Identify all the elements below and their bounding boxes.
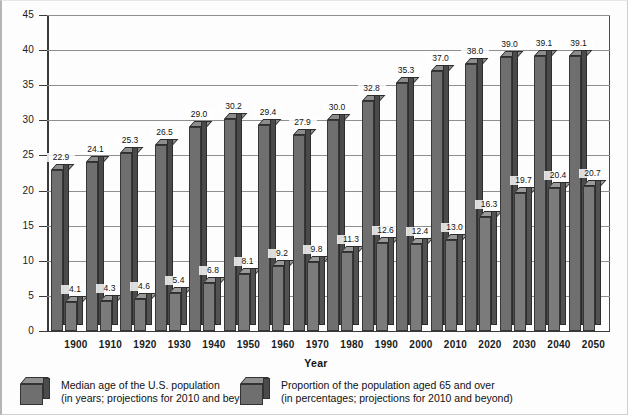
bar-value-label: 39.1 [530, 39, 558, 48]
bar-front-face [445, 240, 457, 331]
bar-front-face [327, 120, 339, 331]
bar-2020-series1 [479, 211, 491, 331]
bar-2050-series0 [569, 50, 581, 331]
y-tick-mark [39, 191, 47, 192]
bar-side-face [77, 296, 83, 325]
bar-front-face [224, 119, 236, 331]
bar-front-face [514, 193, 526, 331]
bar-2050-series1 [583, 180, 595, 331]
bar-front-face [51, 170, 63, 331]
bar-1940-series0 [189, 121, 201, 331]
bar-2010-series0 [431, 65, 443, 331]
bar-value-label: 25.3 [116, 136, 144, 145]
bar-1960-series1 [272, 260, 284, 331]
legend-label-line1: Proportion of the population aged 65 and… [281, 379, 495, 391]
bar-front-face [534, 56, 546, 331]
bar-value-label: 20.7 [579, 169, 607, 178]
bar-value-label: 30.2 [220, 102, 248, 111]
bar-front-face [341, 252, 353, 331]
bar-1980-series0 [327, 114, 339, 331]
legend-item-proportion-65: Proportion of the population aged 65 and… [240, 377, 513, 407]
bar-side-face [595, 180, 601, 325]
bar-front-face [203, 283, 215, 331]
y-tick-mark [39, 226, 47, 227]
bar-front-face [583, 186, 595, 331]
bar-side-face [284, 260, 290, 325]
bar-1930-series0 [155, 139, 167, 331]
bar-1920-series1 [134, 293, 146, 331]
bar-2040-series1 [548, 182, 560, 331]
legend-item-median-age: Median age of the U.S. population (in ye… [20, 377, 261, 407]
bar-1920-series0 [120, 147, 132, 331]
bar-front-face [155, 145, 167, 331]
bar-value-label: 37.0 [427, 54, 455, 63]
y-axis-line [47, 15, 49, 331]
bar-side-face [250, 268, 256, 325]
x-axis-line [47, 331, 599, 332]
y-tick-label: 30 [4, 114, 34, 125]
bar-front-face [120, 153, 132, 331]
bar-side-face [319, 256, 325, 325]
y-tick-label: 35 [4, 79, 34, 90]
y-tick-mark [39, 120, 47, 121]
bar-front-face [569, 56, 581, 331]
bar-1940-series1 [203, 277, 215, 331]
bar-2040-series0 [534, 50, 546, 331]
gridline [47, 50, 610, 51]
bar-front-face [307, 262, 319, 331]
bar-1960-series0 [258, 119, 270, 331]
bar-front-face [465, 64, 477, 331]
y-tick-label: 45 [4, 9, 34, 20]
cube-swatch-icon [20, 377, 52, 407]
legend-label-proportion-65: Proportion of the population aged 65 and… [281, 379, 513, 405]
bar-value-label: 22.9 [47, 153, 75, 162]
y-tick-label: 0 [4, 325, 34, 336]
y-tick-label: 10 [4, 255, 34, 266]
bar-value-label: 30.0 [323, 103, 351, 112]
bar-1930-series1 [169, 287, 181, 331]
bar-2030-series1 [514, 187, 526, 331]
bar-side-face [457, 234, 463, 325]
bar-2010-series1 [445, 234, 457, 331]
bar-value-label: 27.9 [289, 118, 317, 127]
bar-front-face [410, 244, 422, 331]
chart-root: 051015202530354045 22.94.124.14.325.34.6… [0, 0, 628, 415]
y-tick-mark [39, 296, 47, 297]
bar-front-face [169, 293, 181, 331]
bar-1970-series0 [293, 129, 305, 331]
bar-side-face [491, 211, 497, 325]
bar-value-label: 32.8 [358, 84, 386, 93]
y-tick-mark [39, 50, 47, 51]
bar-value-label: 29.0 [185, 110, 213, 119]
bar-front-face [548, 188, 560, 331]
y-tick-label: 40 [4, 44, 34, 55]
bar-front-face [479, 217, 491, 331]
chart-legend: Median age of the U.S. population (in ye… [2, 373, 628, 415]
y-tick-label: 15 [4, 220, 34, 231]
x-tick-label: 2050 [571, 339, 617, 350]
bar-front-face [65, 302, 77, 331]
bar-value-label: 24.1 [82, 145, 110, 154]
bar-2000-series0 [396, 77, 408, 331]
bar-value-label: 26.5 [151, 128, 179, 137]
bar-front-face [396, 83, 408, 331]
legend-label-line2: (in years; projections for 2010 and beyo… [61, 392, 261, 405]
gridline [47, 85, 610, 86]
bar-side-face [526, 187, 532, 325]
legend-label-median-age: Median age of the U.S. population (in ye… [61, 379, 261, 405]
y-tick-mark [39, 331, 47, 332]
bar-side-face [215, 277, 221, 325]
y-tick-mark [39, 85, 47, 86]
bar-front-face [376, 243, 388, 331]
bar-1910-series1 [100, 295, 112, 331]
bar-1990-series0 [362, 95, 374, 331]
bar-2030-series0 [500, 51, 512, 331]
bar-side-face [146, 293, 152, 325]
bar-side-face [388, 237, 394, 325]
bar-front-face [362, 101, 374, 331]
bar-value-label: 35.3 [392, 66, 420, 75]
bar-front-face [86, 162, 98, 331]
bar-1900-series0 [51, 164, 63, 331]
bar-side-face [422, 238, 428, 325]
gridline [47, 15, 610, 16]
